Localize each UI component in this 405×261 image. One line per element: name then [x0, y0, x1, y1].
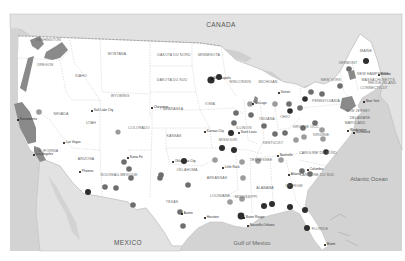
map-marker[interactable]	[261, 123, 267, 129]
state-label-virginie: VIRGINIE	[313, 134, 330, 138]
state-label-connecticut: CONNECTICUT	[360, 87, 387, 91]
state-label-oklahoma: OKLAHOMA	[176, 169, 197, 173]
state-label-new-york: NEW YORK	[321, 79, 341, 83]
city-dot-saint-louis	[238, 132, 240, 134]
map-marker[interactable]	[337, 83, 343, 89]
map-marker[interactable]	[185, 182, 191, 188]
map-marker[interactable]	[247, 101, 253, 107]
map-marker[interactable]	[319, 127, 325, 133]
city-label-new-york-city: New York	[366, 100, 379, 103]
state-label-mississippi: MISSISSIPPI	[235, 196, 257, 200]
map-marker[interactable]	[126, 166, 132, 172]
state-label-nouveau-mexique: NOUVEAU-MEXIQUE	[100, 174, 137, 178]
map-marker[interactable]	[180, 223, 186, 229]
map-marker[interactable]	[286, 101, 292, 107]
city-label-boston: Boston	[381, 73, 391, 76]
map-marker[interactable]	[219, 145, 225, 151]
map-marker[interactable]	[308, 89, 314, 95]
city-label-nashville: Nashville	[280, 154, 293, 157]
city-label-saint-louis: Saint Louis	[241, 131, 257, 134]
map-marker[interactable]	[287, 204, 293, 210]
city-label-salt-lake-city: Salt Lake City	[94, 109, 114, 112]
city-dot-phoenix	[79, 171, 81, 173]
label-atlantic-ocean: Atlantic Ocean	[350, 177, 388, 183]
map-marker[interactable]	[113, 185, 119, 191]
map-marker[interactable]	[102, 184, 108, 190]
city-dot-nashville	[277, 155, 279, 157]
city-label-miami: Miami	[327, 243, 336, 246]
state-label-michigan: MICHIGAN	[259, 81, 278, 85]
city-label-kansas-city: Kansas City	[207, 130, 224, 133]
map-marker[interactable]	[278, 157, 284, 163]
map-marker[interactable]	[319, 91, 325, 97]
city-dot-columbia	[307, 169, 309, 171]
city-dot-detroit	[278, 92, 280, 94]
map-marker[interactable]	[130, 202, 136, 208]
city-label-austin: Austin	[184, 212, 193, 215]
city-dot-salt-lake-city	[91, 110, 93, 112]
map-marker[interactable]	[282, 130, 288, 136]
map-marker[interactable]	[158, 172, 164, 178]
city-label-nouvelle-orleans: Nouvelle-Orléans	[250, 224, 275, 227]
map-marker[interactable]	[115, 129, 120, 134]
city-label-minneapolis: Minneapolis	[214, 77, 231, 80]
state-label-maryland: MARYLAND	[345, 122, 366, 126]
map-marker[interactable]	[297, 105, 303, 111]
map-marker[interactable]	[36, 109, 42, 115]
city-dot-austin	[181, 213, 183, 215]
map-marker[interactable]	[293, 137, 299, 143]
state-label-idaho: IDAHO	[75, 75, 87, 79]
city-label-santa-fe: Santa Fe	[130, 156, 143, 159]
state-label-floride: FLORIDE	[312, 228, 328, 232]
state-label-arkansas: ARKANSAS	[207, 177, 227, 181]
city-dot-miami	[324, 244, 326, 246]
map-marker[interactable]	[231, 120, 237, 126]
map-marker[interactable]	[227, 199, 233, 205]
map-marker[interactable]	[287, 108, 293, 114]
state-label-colorado: COLORADO	[128, 127, 149, 131]
state-label-dakota-sud: DAKOTA DU SUD	[157, 79, 187, 83]
city-dot-cheyenne	[151, 107, 153, 109]
state-label-louisiane: LOUISIANE	[210, 195, 230, 199]
map-marker[interactable]	[228, 130, 234, 136]
map-marker[interactable]	[85, 189, 91, 195]
state-label-maine: MAINE	[360, 50, 372, 54]
map-marker[interactable]	[121, 159, 127, 165]
map-marker[interactable]	[239, 159, 245, 165]
map-marker[interactable]	[272, 101, 278, 107]
map-marker[interactable]	[212, 157, 218, 163]
map-marker[interactable]	[231, 147, 237, 153]
city-label-detroit: Detroit	[281, 91, 290, 94]
map-marker[interactable]	[233, 110, 239, 116]
map-marker[interactable]	[346, 66, 352, 72]
city-dot-nouvelle-orleans	[247, 225, 249, 227]
map-marker[interactable]	[272, 131, 278, 137]
state-label-dakota-nord: DAKOTA DU NORD	[157, 54, 190, 58]
state-label-indiana: INDIANA	[259, 118, 274, 122]
city-label-phoenix: Phoenix	[82, 170, 94, 173]
map-marker[interactable]	[301, 134, 307, 140]
state-label-ohio: OHIO	[280, 116, 290, 120]
city-dot-atlanta	[288, 174, 290, 176]
city-label-sacramento: Sacramento	[20, 118, 37, 121]
state-label-wisconsin: WISCONSIN	[229, 81, 251, 85]
map-marker[interactable]	[304, 225, 310, 231]
state-label-missouri: MISSOURI	[219, 139, 238, 143]
map-marker[interactable]	[302, 207, 308, 213]
map-marker[interactable]	[240, 175, 246, 181]
us-map[interactable]: CANADA MEXICO Atlantic Ocean Gulf of Mex…	[0, 0, 405, 261]
map-marker[interactable]	[363, 58, 369, 64]
city-dot-little-rock	[222, 167, 224, 169]
city-label-los-angeles: Los Angeles	[36, 153, 53, 156]
map-marker[interactable]	[248, 112, 254, 118]
city-label-houston: Houston	[207, 216, 219, 219]
map-marker[interactable]	[302, 96, 308, 102]
city-label-columbia: Columbia	[310, 168, 323, 171]
map-marker[interactable]	[269, 201, 275, 207]
city-dot-oklahoma-city	[172, 161, 174, 163]
state-label-arizona: ARIZONA	[78, 158, 95, 162]
state-label-virginie-occ: VIRGINIE OCC.	[292, 126, 319, 130]
map-marker[interactable]	[261, 203, 267, 209]
city-dot-los-angeles	[33, 154, 35, 156]
city-dot-minneapolis	[211, 78, 213, 80]
